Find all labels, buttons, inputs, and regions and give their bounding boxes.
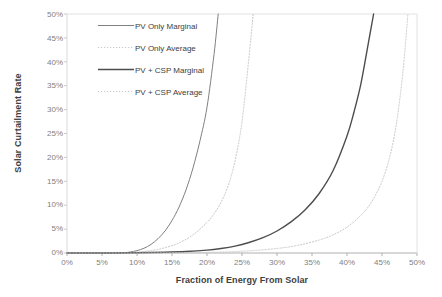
- chart-container: Solar Curtailment Rate Fraction of Energ…: [0, 0, 442, 297]
- plot-area: [0, 0, 442, 297]
- legend-item-pv-csp-marginal: PV + CSP Marginal: [135, 66, 204, 75]
- legend-item-pv-only-marginal: PV Only Marginal: [135, 22, 197, 31]
- legend-swatch-group: [98, 26, 134, 92]
- data-series-group: [67, 14, 408, 253]
- legend-item-pv-csp-average: PV + CSP Average: [135, 88, 203, 97]
- series-line: [67, 14, 408, 253]
- series-line: [67, 14, 374, 253]
- legend-item-pv-only-average: PV Only Average: [135, 44, 196, 53]
